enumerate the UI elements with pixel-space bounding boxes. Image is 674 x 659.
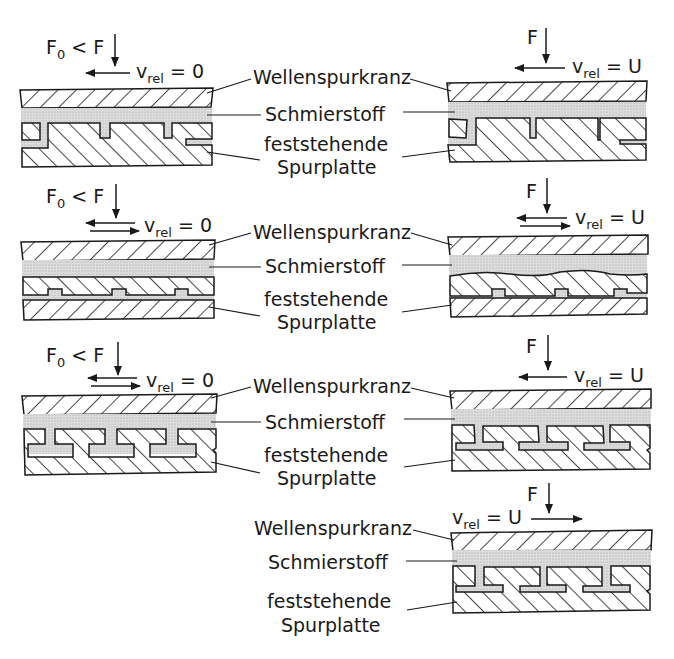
- plate-label-line2: Spurplatte: [277, 311, 377, 333]
- collar: [451, 530, 652, 551]
- thrust-plate: [22, 123, 212, 167]
- leader-line: [411, 388, 454, 398]
- lubricant-label: Schmierstoff: [265, 103, 386, 125]
- force-label: F0 < F: [46, 344, 104, 370]
- thrust-plate: [450, 298, 647, 317]
- thrust-plate: [448, 118, 646, 162]
- force-label: F: [527, 26, 538, 48]
- collar-label: Wellenspurkranz: [253, 66, 411, 88]
- panel-b-left: F0 < F vrel= 0: [21, 184, 215, 320]
- pad: [449, 119, 467, 138]
- pad: [22, 123, 40, 140]
- collar-label: Wellenspurkranz: [254, 517, 412, 539]
- leader-line: [211, 387, 251, 398]
- plate-label-line2: Spurplatte: [277, 467, 377, 489]
- panel-a-left: F0 < F vrel= 0: [20, 34, 213, 167]
- plate-label: feststehende: [264, 444, 388, 466]
- velocity-label: vrel= U: [452, 506, 522, 532]
- collar: [447, 81, 647, 102]
- leader-line: [209, 307, 260, 316]
- panel-b-right: F vrel= U: [448, 178, 648, 317]
- labels-row-3: Wellenspurkranz Schmierstoff feststehend…: [211, 375, 455, 489]
- plate-label: feststehende: [264, 133, 388, 155]
- panel-d-right: F vrel= U: [451, 483, 652, 613]
- leader-line: [410, 79, 451, 91]
- force-label: F0 < F: [46, 185, 104, 211]
- labels-row-2: Wellenspurkranz Schmierstoff feststehend…: [209, 221, 452, 333]
- bearing-diagram: F0 < F vrel= 0 F vrel= U F0 < F vrel= 0: [0, 0, 674, 659]
- collar: [450, 389, 651, 410]
- leader-line: [209, 233, 251, 245]
- velocity-label: vrel= 0: [136, 60, 204, 86]
- leader-line: [411, 233, 452, 245]
- panel-a-right: F vrel= U: [447, 26, 647, 162]
- thrust-plate: [23, 300, 214, 320]
- labels-row-4: Wellenspurkranz Schmierstoff feststehend…: [254, 517, 457, 636]
- plate-label: feststehende: [267, 590, 391, 612]
- force-label: F0 < F: [46, 36, 104, 62]
- collar-label: Wellenspurkranz: [253, 221, 411, 243]
- lubricant-label: Schmierstoff: [265, 255, 386, 277]
- collar: [448, 235, 648, 256]
- panel-c-right: F vrel= U: [450, 335, 651, 471]
- force-label: F: [527, 483, 538, 505]
- plate-label-line2: Spurplatte: [281, 614, 381, 636]
- collar-label: Wellenspurkranz: [253, 375, 411, 397]
- velocity-label: vrel= U: [575, 206, 645, 232]
- velocity-label: vrel= 0: [144, 214, 212, 240]
- plate-label-line2: Spurplatte: [277, 156, 377, 178]
- collar: [20, 88, 213, 108]
- leader-line: [402, 150, 455, 157]
- svg-text:F0 < F: F0 < F: [46, 36, 104, 62]
- leader-line: [207, 152, 260, 160]
- leader-line: [413, 530, 454, 540]
- velocity-label: vrel= 0: [146, 369, 214, 395]
- leader-line: [404, 460, 455, 467]
- force-label: F: [526, 180, 537, 202]
- collar: [21, 240, 215, 261]
- leader-line: [211, 462, 260, 473]
- leader-line: [402, 305, 452, 312]
- leader-line: [407, 602, 457, 610]
- velocity-label: vrel= U: [572, 55, 642, 81]
- lubricant-label: Schmierstoff: [268, 551, 389, 573]
- plate-label: feststehende: [264, 288, 388, 310]
- collar: [22, 394, 217, 415]
- lubricant-label: Schmierstoff: [265, 411, 386, 433]
- labels-row-1: Wellenspurkranz Schmierstoff feststehend…: [207, 66, 455, 178]
- force-label: F: [526, 335, 537, 357]
- velocity-label: vrel= U: [574, 364, 644, 390]
- leader-line: [207, 79, 251, 93]
- panel-c-left: F0 < F vrel= 0: [22, 342, 217, 475]
